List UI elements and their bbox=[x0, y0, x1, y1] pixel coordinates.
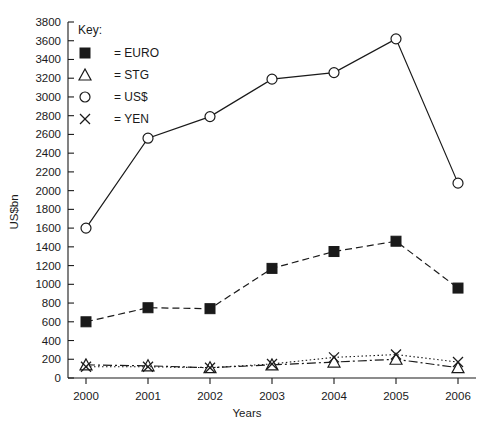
y-tick-label: 3000 bbox=[35, 91, 61, 103]
legend-marker-open-triangle-icon bbox=[79, 69, 91, 80]
y-tick-label: 1400 bbox=[35, 241, 61, 253]
data-point bbox=[329, 247, 339, 257]
data-point bbox=[391, 236, 401, 246]
legend-marker-filled-square-icon bbox=[80, 48, 90, 58]
legend-item-usd: = US$ bbox=[80, 90, 148, 104]
y-tick-label: 3200 bbox=[35, 72, 61, 84]
y-tick-label: 0 bbox=[55, 372, 61, 384]
y-tick-label: 1000 bbox=[35, 278, 61, 290]
y-tick-label: 2800 bbox=[35, 110, 61, 122]
y-tick-label: 2600 bbox=[35, 128, 61, 140]
legend-marker-cross-icon bbox=[80, 114, 90, 124]
legend-label: = STG bbox=[114, 68, 149, 82]
data-point bbox=[391, 34, 401, 44]
data-point bbox=[329, 68, 339, 78]
data-point bbox=[453, 178, 463, 188]
data-point bbox=[81, 317, 91, 327]
legend-item-stg: = STG bbox=[79, 68, 149, 82]
y-tick-label: 800 bbox=[42, 297, 61, 309]
x-tick-label: 2002 bbox=[197, 390, 223, 402]
data-point bbox=[267, 263, 277, 273]
series-layer bbox=[80, 34, 464, 373]
data-point bbox=[81, 223, 91, 233]
y-tick-label: 1800 bbox=[35, 203, 61, 215]
x-tick-label: 2005 bbox=[383, 390, 409, 402]
legend-item-euro: = EURO bbox=[80, 46, 159, 60]
data-point bbox=[452, 362, 464, 373]
x-axis-title: Years bbox=[233, 407, 262, 419]
y-tick-label: 2200 bbox=[35, 166, 61, 178]
legend-label: = EURO bbox=[114, 46, 159, 60]
y-tick-label: 1600 bbox=[35, 222, 61, 234]
x-tick-label: 2001 bbox=[135, 390, 161, 402]
y-tick-label: 400 bbox=[42, 335, 61, 347]
legend-item-yen: = YEN bbox=[80, 112, 149, 126]
series-line bbox=[86, 241, 458, 322]
y-tick-label: 3600 bbox=[35, 35, 61, 47]
x-tick-label: 2004 bbox=[321, 390, 347, 402]
y-tick-label: 3800 bbox=[35, 16, 61, 28]
data-point bbox=[143, 133, 153, 143]
x-axis-ticks: 2000200120022003200420052006 bbox=[73, 378, 471, 402]
data-point bbox=[143, 303, 153, 313]
data-point bbox=[205, 304, 215, 314]
y-tick-label: 3400 bbox=[35, 53, 61, 65]
legend-label: = YEN bbox=[114, 112, 149, 126]
data-point bbox=[453, 283, 463, 293]
y-tick-label: 600 bbox=[42, 316, 61, 328]
y-tick-label: 2000 bbox=[35, 185, 61, 197]
x-tick-label: 2000 bbox=[73, 390, 99, 402]
series-usd bbox=[81, 34, 463, 233]
x-tick-label: 2006 bbox=[445, 390, 471, 402]
line-chart: 0200400600800100012001400160018002000220… bbox=[0, 0, 495, 423]
legend-marker-open-circle-icon bbox=[80, 92, 90, 102]
x-tick-label: 2003 bbox=[259, 390, 285, 402]
y-tick-label: 2400 bbox=[35, 147, 61, 159]
y-axis-title: US$bn bbox=[8, 194, 20, 229]
data-point bbox=[267, 74, 277, 84]
legend-label: = US$ bbox=[114, 90, 148, 104]
series-euro bbox=[81, 236, 463, 327]
y-tick-label: 1200 bbox=[35, 260, 61, 272]
data-point bbox=[205, 112, 215, 122]
y-tick-label: 200 bbox=[42, 353, 61, 365]
chart-canvas: 0200400600800100012001400160018002000220… bbox=[0, 0, 495, 423]
legend-title: Key: bbox=[78, 23, 102, 37]
chart-legend: Key:= EURO= STG= US$= YEN bbox=[78, 23, 159, 126]
